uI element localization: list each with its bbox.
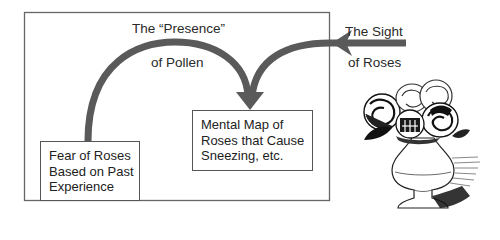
sight-label-line1: The Sight xyxy=(345,24,403,40)
mental-map-box: Mental Map of Roses that Cause Sneezing,… xyxy=(192,110,313,171)
fear-box-line: Experience xyxy=(49,179,139,195)
merge-arrowhead-icon xyxy=(236,92,264,110)
mental-map-box-line: Roses that Cause xyxy=(201,133,312,149)
roses-vase-illustration xyxy=(364,80,480,208)
mental-map-box-line: Mental Map of xyxy=(201,117,312,133)
sight-label-line2: of Roses xyxy=(348,55,401,71)
mental-map-box-line: Sneezing, etc. xyxy=(201,148,312,164)
fear-of-roses-box: Fear of Roses Based on Past Experience xyxy=(40,141,140,201)
fear-box-line: Fear of Roses xyxy=(49,148,139,164)
fear-box-line: Based on Past xyxy=(49,164,139,180)
pollen-label-line1: The “Presence” xyxy=(132,21,225,37)
pollen-label-line2: of Pollen xyxy=(151,55,204,71)
